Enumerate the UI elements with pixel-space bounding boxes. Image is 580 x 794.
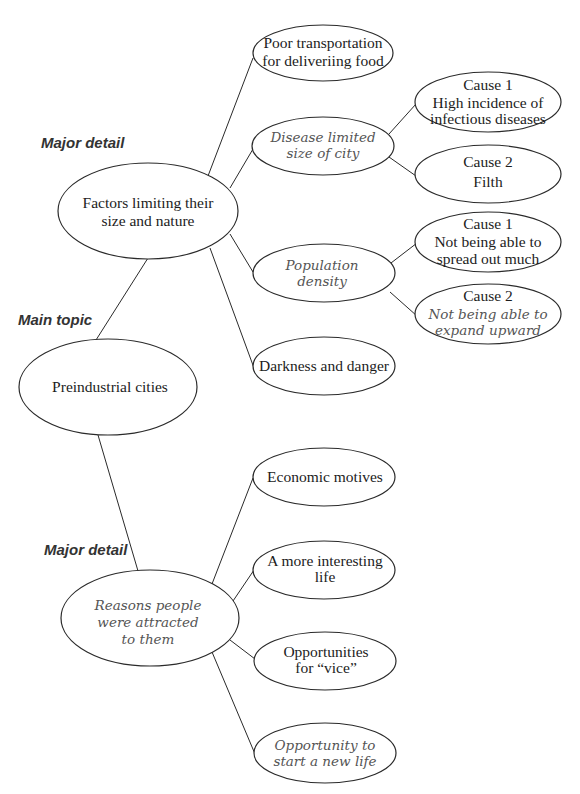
edge-factors-to-darkness [210, 248, 254, 368]
node-label-line-2: size of city [287, 145, 360, 161]
node-label-line-3: to them [122, 631, 175, 647]
edge-reasons-to-economic [212, 478, 253, 584]
node-new-life: Opportunity to start a new life [254, 723, 396, 783]
node-major-detail-factors: Factors limiting their size and nature [58, 163, 238, 259]
node-label-line-2: Not being able to [427, 306, 547, 322]
edge-population-to-cause2 [390, 292, 417, 316]
node-label-line-1: Cause 2 [463, 153, 513, 170]
node-label-line-1: Population [285, 257, 359, 273]
node-label-line-2: life [315, 568, 336, 585]
node-label-line-3: infectious diseases [430, 110, 546, 127]
node-interesting-life: A more interesting life [253, 541, 395, 599]
edge-reasons-to-vice [230, 640, 255, 659]
node-label-line-2: size and nature [102, 212, 195, 229]
node-label-line-3: expand upward [435, 322, 541, 338]
node-label-line-2: Not being able to [434, 233, 541, 250]
node-label: Economic motives [267, 468, 383, 485]
edge-factors-to-disease [230, 149, 253, 188]
node-label-line-1: A more interesting [267, 552, 383, 569]
edge-disease-to-cause1 [389, 104, 416, 134]
node-label: Darkness and danger [259, 357, 390, 374]
node-label-line-1: Cause 1 [463, 215, 513, 232]
edge-factors-to-transportation [208, 58, 253, 176]
node-disease-limited: Disease limited size of city [252, 117, 394, 175]
node-major-detail-reasons: Reasons people were attracted to them [61, 570, 239, 666]
node-label-line-2: High incidence of [432, 94, 544, 111]
node-label: Preindustrial cities [52, 378, 168, 395]
category-label-main-topic: Main topic [18, 311, 93, 328]
node-label-line-1: Opportunity to [275, 737, 376, 753]
node-opportunities-vice: Opportunities for “vice” [254, 632, 396, 690]
node-poor-transportation: Poor transportation for deliveriing food [253, 25, 393, 81]
node-label-line-1: Opportunities [283, 643, 368, 660]
node-cause1-infectious: Cause 1 High incidence of infectious dis… [415, 72, 561, 132]
node-label-line-2: density [297, 273, 347, 289]
node-main-topic: Preindustrial cities [19, 339, 197, 435]
edge-population-to-cause1 [391, 243, 417, 263]
node-cause1-spread: Cause 1 Not being able to spread out muc… [415, 212, 561, 272]
node-label-line-3: spread out much [437, 250, 540, 267]
node-label-line-1: Disease limited [269, 129, 375, 145]
node-label-line-1: Poor transportation [263, 34, 382, 51]
node-label-line-1: Cause 1 [463, 76, 513, 93]
category-label-major-detail-top: Major detail [41, 134, 125, 151]
node-cause2-filth: Cause 2 Filth [415, 145, 561, 203]
category-label-major-detail-bottom: Major detail [44, 541, 128, 558]
node-population-density: Population density [253, 244, 395, 302]
node-label-line-1: Reasons people [94, 597, 202, 613]
node-label-line-2: for deliveriing food [262, 52, 384, 69]
edge-disease-to-cause2 [389, 157, 416, 176]
node-label-line-2: Filth [473, 173, 503, 190]
edge-factors-to-population [230, 234, 253, 272]
node-label-line-1: Factors limiting their [83, 194, 215, 211]
node-cause2-expand: Cause 2 Not being able to expand upward [415, 284, 561, 344]
node-label-line-2: were attracted [97, 614, 199, 630]
edge-reasons-to-interesting [233, 570, 254, 601]
node-darkness-danger: Darkness and danger [253, 337, 395, 395]
node-label-line-2: for “vice” [295, 659, 357, 676]
node-label-line-1: Cause 2 [463, 287, 513, 304]
edge-reasons-to-newlife [212, 652, 255, 754]
node-economic-motives: Economic motives [253, 448, 395, 506]
concept-map: Major detail Main topic Major detail Pre… [0, 0, 580, 794]
node-label-line-2: start a new life [273, 753, 376, 769]
edge-main-to-factors [96, 258, 148, 340]
